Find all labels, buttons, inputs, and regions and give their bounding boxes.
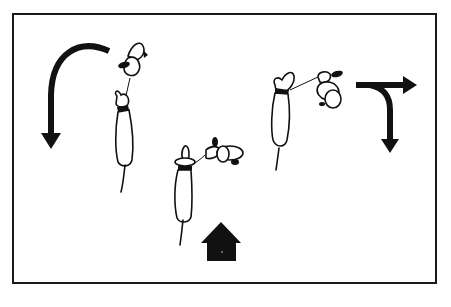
diagram [0,0,451,307]
